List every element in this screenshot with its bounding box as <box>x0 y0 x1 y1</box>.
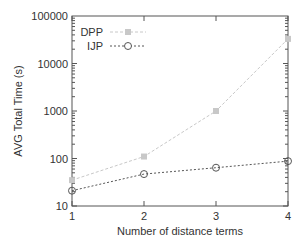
data-point <box>213 108 219 114</box>
data-point <box>141 154 147 160</box>
legend-label-dpp: DPP <box>80 26 103 38</box>
legend-label-ijp: IJP <box>87 40 103 52</box>
y-tick-label: 1000 <box>44 105 68 117</box>
y-tick-labels: 10100100010000100000 <box>31 10 68 212</box>
x-tick-label: 2 <box>141 210 147 222</box>
series-line-ijp <box>72 161 288 191</box>
y-tick-label: 10000 <box>37 58 68 70</box>
y-tick-label: 100 <box>50 153 68 165</box>
x-axis-label: Number of distance terms <box>117 225 243 237</box>
axis-ticks <box>72 16 288 206</box>
legend-marker <box>125 43 132 50</box>
y-axis-label: AVG Total Time (s) <box>12 65 24 156</box>
x-tick-label: 3 <box>213 210 219 222</box>
y-tick-label: 100000 <box>31 10 68 22</box>
legend-marker <box>125 29 131 35</box>
x-tick-labels: 1234 <box>69 210 291 222</box>
data-point <box>69 177 75 183</box>
series-line-dpp <box>72 39 288 180</box>
data-point <box>285 36 291 42</box>
data-series <box>69 36 292 194</box>
x-tick-label: 1 <box>69 210 75 222</box>
y-tick-label: 10 <box>56 200 68 212</box>
x-tick-label: 4 <box>285 210 291 222</box>
plot-frame <box>72 16 288 206</box>
legend: DPP IJP <box>80 26 146 52</box>
chart: 10100100010000100000 1234 Number of dist… <box>0 0 304 241</box>
